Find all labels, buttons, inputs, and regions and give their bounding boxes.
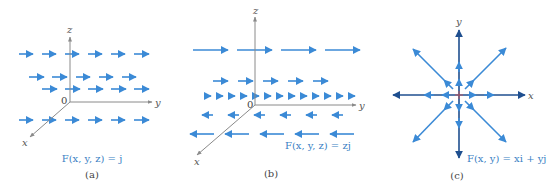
x-axis (30, 102, 70, 137)
panel-b-vectors (190, 50, 360, 134)
origin-label: 0 (247, 99, 253, 110)
panel-a-label: (a) (85, 169, 99, 180)
origin-label: 0 (61, 95, 67, 106)
z-axis-label: z (66, 24, 73, 35)
origin-mark (455, 91, 463, 99)
panel-c-label: (c) (450, 170, 464, 181)
y-axis-label: y (154, 97, 161, 108)
y-axis-label: y (358, 100, 365, 111)
z-axis-label: z (252, 5, 259, 16)
panel-c-caption: F(x, y) = xi + yj (467, 153, 546, 164)
x-axis-label: x (528, 90, 534, 101)
x-axis-label: x (194, 156, 200, 167)
panel-a: z y x 0 F(x, y, z) = j (a) (19, 24, 161, 180)
panel-a-vectors (19, 54, 149, 120)
y-axis-label: y (455, 16, 462, 27)
x-axis (197, 105, 255, 155)
panel-c: y x F(x, y) = xi + yj (c) (393, 16, 546, 181)
panel-b-label: (b) (264, 168, 278, 179)
panel-a-axes (30, 37, 152, 137)
panel-b-caption: F(x, y, z) = zj (285, 140, 351, 151)
x-axis-label: x (22, 137, 28, 148)
vector-field-figure: z y x 0 F(x, y, z) = j (a) (0, 0, 552, 191)
panel-a-caption: F(x, y, z) = j (62, 153, 123, 164)
panel-b: z y x 0 F(x, y, z) = zj (b) (190, 5, 365, 179)
